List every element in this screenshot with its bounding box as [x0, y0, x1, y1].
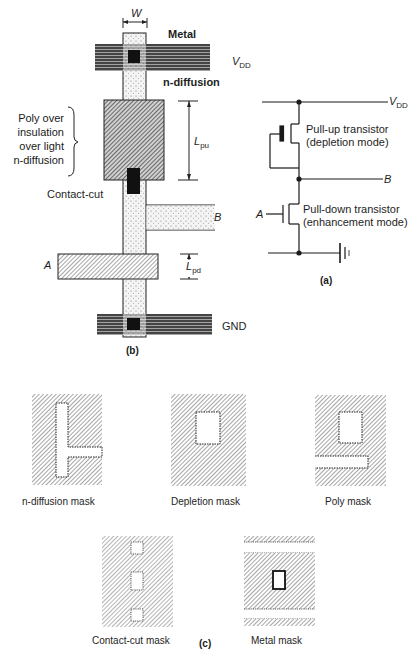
pulldown-label-1: Pull-down transistor [303, 203, 400, 216]
depletion-mask-label: Depletion mask [171, 495, 240, 508]
metal-mask-shape [244, 536, 315, 626]
width-label: W [131, 7, 141, 20]
node-b-label-layout: B [214, 211, 221, 224]
node-a-label-layout: A [44, 259, 51, 272]
caption-b: (b) [126, 345, 139, 356]
layout-b [58, 18, 215, 337]
vdd-contact [128, 50, 140, 63]
lpu-label: Lpu [194, 135, 209, 152]
buried-contact [127, 168, 140, 194]
contact-cut-mask-shape [102, 536, 173, 627]
depletion-mask-shape [171, 394, 246, 486]
vdd-metal-rail [95, 44, 210, 71]
pullup-label-2: (depletion mode) [306, 136, 389, 149]
pulldown-label-2: (enhancement mode) [303, 216, 408, 229]
metal-mask-label: Metal mask [251, 634, 302, 647]
contact-cut-mask-label: Contact-cut mask [92, 634, 170, 647]
gnd-label: GND [222, 320, 246, 333]
poly-note: Poly over insulation over light n-diffus… [6, 111, 64, 167]
n-diffusion-mask-label: n-diffusion mask [22, 495, 95, 508]
n-diffusion-label: n-diffusion [163, 76, 220, 89]
poly-input-a [58, 254, 158, 279]
node-b-label-schematic: B [384, 173, 391, 186]
pullup-label-1: Pull-up transistor [306, 123, 389, 136]
vdd-label-a: VDD [389, 95, 408, 112]
caption-c: (c) [199, 638, 211, 649]
contact-cut-label: Contact-cut [47, 188, 103, 201]
metal-label: Metal [168, 28, 196, 41]
nmos-inverter-figure [0, 0, 420, 657]
gnd-contact [127, 318, 140, 330]
poly-mask-shape [315, 395, 386, 486]
caption-a: (a) [320, 275, 332, 286]
lpd-label: Lpd [186, 260, 201, 277]
gnd-metal-rail [97, 314, 212, 335]
vdd-label-b: VDD [232, 55, 251, 72]
poly-mask-label: Poly mask [325, 495, 371, 508]
n-diffusion-mask-shape [32, 394, 102, 485]
node-a-label-schematic: A [256, 208, 263, 221]
